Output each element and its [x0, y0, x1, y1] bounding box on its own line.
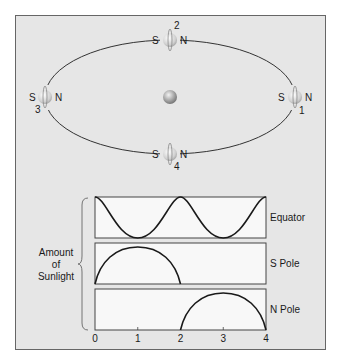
- y-axis-label-line3: Sunlight: [38, 271, 74, 282]
- north-label: N: [180, 149, 187, 160]
- y-axis-label-line1: Amount: [39, 247, 74, 258]
- south-label: S: [152, 35, 159, 46]
- sun-icon: [163, 90, 177, 104]
- earth-icon: [288, 90, 302, 104]
- south-label: S: [29, 92, 36, 103]
- series-label-n-pole: N Pole: [270, 304, 300, 315]
- north-label: N: [55, 92, 62, 103]
- south-label: S: [152, 149, 159, 160]
- x-tick-label: 1: [135, 333, 141, 344]
- y-axis-label-line2: of: [52, 259, 61, 270]
- earth-icon: [163, 147, 177, 161]
- x-tick-label: 3: [220, 333, 226, 344]
- seasons-diagram: S N 2 S N 1 S N 3 S N 4 Amount of Sunlig…: [0, 0, 341, 362]
- position-number: 4: [174, 161, 180, 172]
- north-label: N: [305, 92, 312, 103]
- position-number: 3: [35, 104, 41, 115]
- x-tick-label: 4: [263, 333, 269, 344]
- earth-icon: [163, 33, 177, 47]
- south-label: S: [278, 92, 285, 103]
- position-number: 2: [174, 20, 180, 31]
- series-label-equator: Equator: [270, 212, 306, 223]
- x-tick-label: 2: [178, 333, 184, 344]
- position-number: 1: [299, 105, 305, 116]
- series-label-s-pole: S Pole: [270, 258, 300, 269]
- x-tick-label: 0: [92, 333, 98, 344]
- earth-icon: [38, 90, 52, 104]
- north-label: N: [180, 35, 187, 46]
